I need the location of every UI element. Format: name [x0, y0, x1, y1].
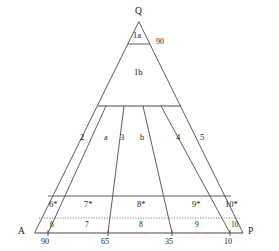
- field-label-8: 8: [139, 221, 143, 229]
- divider-a35: [143, 106, 172, 233]
- field-label-6: 6: [50, 221, 54, 229]
- apex-label-p: P: [248, 227, 253, 237]
- field-label-b: b: [140, 133, 144, 142]
- field-label-5: 5: [200, 133, 204, 142]
- divider-a10: [161, 106, 230, 233]
- field-label-1b: 1b: [134, 68, 143, 77]
- field-label-10-star: 10*: [225, 200, 238, 209]
- apex-label-q: Q: [135, 7, 142, 17]
- apex-label-a: A: [18, 227, 25, 237]
- axis-tick-label-35: 35: [165, 238, 173, 246]
- field-label-7: 7: [85, 221, 89, 229]
- field-label-9: 9: [195, 221, 199, 229]
- field-label-8-star: 8*: [137, 200, 146, 209]
- axis-tick-label-65: 65: [101, 238, 109, 246]
- divider-a65: [108, 106, 124, 233]
- field-label-9-star: 9*: [192, 200, 201, 209]
- divider-a90: [48, 106, 106, 233]
- field-label-a: a: [104, 133, 108, 142]
- field-label-3: 3: [120, 133, 124, 142]
- axis-tick-label-90: 90: [41, 238, 49, 246]
- field-label-6-star: 6*: [49, 200, 58, 209]
- field-label-10: 10: [231, 221, 239, 229]
- field-label-4: 4: [176, 133, 180, 142]
- ternary-diagram: Q A P 90 1a 1b 2 a 3 b 4 5 6* 7* 8* 9* 1…: [0, 0, 279, 251]
- field-label-1a: 1a: [133, 31, 141, 40]
- field-label-7-star: 7*: [84, 200, 93, 209]
- field-label-2: 2: [80, 133, 84, 142]
- edge-value-q90: 90: [156, 38, 164, 46]
- axis-tick-label-10: 10: [224, 238, 232, 246]
- pa-ratio-divider-lines: [48, 106, 230, 233]
